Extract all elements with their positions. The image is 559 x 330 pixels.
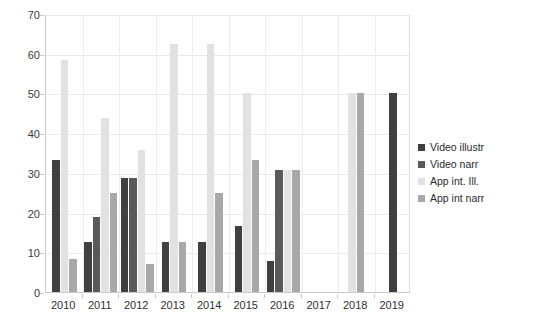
bar bbox=[170, 44, 178, 292]
bar bbox=[389, 93, 397, 292]
x-axis-tick-mark bbox=[264, 294, 265, 298]
plot-area bbox=[45, 15, 410, 293]
bar-group bbox=[119, 15, 156, 292]
legend-item-label: Video narr bbox=[430, 159, 478, 170]
bar bbox=[267, 261, 275, 292]
y-axis-tick-label: 70 bbox=[6, 10, 40, 20]
bar bbox=[198, 242, 206, 292]
bar bbox=[110, 193, 118, 292]
legend-item[interactable]: Video narr bbox=[418, 157, 556, 172]
bar-group bbox=[265, 15, 302, 292]
x-axis-tick-label: 2013 bbox=[155, 299, 192, 311]
bar bbox=[207, 44, 215, 292]
y-axis-tick-mark bbox=[40, 134, 44, 135]
bar bbox=[348, 93, 356, 292]
y-axis-tick-label: 10 bbox=[6, 248, 40, 258]
bar bbox=[162, 242, 170, 292]
legend-swatch-icon bbox=[418, 144, 425, 151]
bar bbox=[357, 93, 365, 292]
legend-item[interactable]: App int. Ill. bbox=[418, 174, 556, 189]
y-axis-tick-label: 0 bbox=[6, 288, 40, 298]
bar-group bbox=[156, 15, 193, 292]
y-axis-tick-label: 20 bbox=[6, 209, 40, 219]
legend-item[interactable]: Video illustr bbox=[418, 140, 556, 155]
bar bbox=[52, 160, 60, 292]
legend-item-label: App int. Ill. bbox=[430, 176, 479, 187]
legend-item[interactable]: App int narr bbox=[418, 191, 556, 206]
x-axis-tick-mark bbox=[82, 294, 83, 298]
y-axis-tick-mark bbox=[40, 15, 44, 16]
bar bbox=[101, 118, 109, 292]
x-axis-tick-label: 2018 bbox=[337, 299, 374, 311]
x-axis-tick-label: 2019 bbox=[374, 299, 411, 311]
bar bbox=[179, 242, 187, 292]
x-axis-tick-mark bbox=[337, 294, 338, 298]
bar bbox=[292, 170, 300, 292]
bar bbox=[146, 264, 154, 292]
bar-chart: 010203040506070 201020112012201320142015… bbox=[0, 0, 559, 330]
y-axis-tick-mark bbox=[40, 94, 44, 95]
x-axis-tick-label: 2014 bbox=[191, 299, 228, 311]
bar bbox=[84, 242, 92, 292]
x-axis-tick-mark bbox=[191, 294, 192, 298]
bar-group bbox=[229, 15, 266, 292]
bar-group bbox=[192, 15, 229, 292]
bar bbox=[121, 178, 129, 292]
legend-swatch-icon bbox=[418, 195, 425, 202]
y-axis-tick-mark bbox=[40, 293, 44, 294]
legend-item-label: Video illustr bbox=[430, 142, 484, 153]
x-axis-tick-mark bbox=[118, 294, 119, 298]
y-axis-tick-label: 60 bbox=[6, 50, 40, 60]
bar-group bbox=[302, 15, 339, 292]
bar bbox=[275, 170, 283, 292]
x-axis-tick-label: 2010 bbox=[45, 299, 82, 311]
bar bbox=[93, 217, 101, 292]
x-axis-tick-label: 2017 bbox=[301, 299, 338, 311]
y-axis-tick-label: 30 bbox=[6, 169, 40, 179]
x-axis-tick-mark bbox=[301, 294, 302, 298]
chart-legend: Video illustrVideo narrApp int. Ill.App … bbox=[418, 140, 556, 208]
bar-group bbox=[375, 15, 412, 292]
y-axis-tick-mark bbox=[40, 214, 44, 215]
y-axis-tick-mark bbox=[40, 174, 44, 175]
bar bbox=[61, 60, 69, 292]
bar bbox=[235, 226, 243, 292]
bar bbox=[243, 93, 251, 292]
caption-strip bbox=[0, 318, 559, 330]
bar bbox=[138, 150, 146, 292]
x-axis-tick-mark bbox=[155, 294, 156, 298]
bar bbox=[69, 259, 77, 292]
y-axis-tick-label: 50 bbox=[6, 89, 40, 99]
x-axis: 2010201120122013201420152016201720182019 bbox=[45, 294, 410, 316]
y-axis: 010203040506070 bbox=[0, 15, 40, 293]
bar-group bbox=[46, 15, 83, 292]
x-axis-tick-label: 2012 bbox=[118, 299, 155, 311]
y-axis-tick-mark bbox=[40, 253, 44, 254]
bar bbox=[215, 193, 223, 292]
y-axis-tick-mark bbox=[40, 55, 44, 56]
bar bbox=[129, 178, 137, 292]
x-axis-tick-label: 2011 bbox=[82, 299, 119, 311]
bar bbox=[252, 160, 260, 292]
x-axis-tick-mark bbox=[374, 294, 375, 298]
bar-group bbox=[83, 15, 120, 292]
x-axis-tick-label: 2016 bbox=[264, 299, 301, 311]
x-axis-tick-label: 2015 bbox=[228, 299, 265, 311]
y-axis-tick-label: 40 bbox=[6, 129, 40, 139]
legend-swatch-icon bbox=[418, 161, 425, 168]
bar bbox=[284, 170, 292, 292]
legend-swatch-icon bbox=[418, 178, 425, 185]
bar-group bbox=[338, 15, 375, 292]
x-axis-tick-mark bbox=[228, 294, 229, 298]
legend-item-label: App int narr bbox=[430, 193, 484, 204]
